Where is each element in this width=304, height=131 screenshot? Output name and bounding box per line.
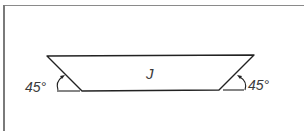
shape-label: J — [145, 65, 154, 82]
trapezoid-diagram: 45° 45° J — [0, 0, 304, 131]
left-angle-label: 45° — [25, 79, 47, 95]
diagram-canvas: 45° 45° J — [0, 0, 304, 131]
right-angle-label: 45° — [248, 77, 270, 93]
